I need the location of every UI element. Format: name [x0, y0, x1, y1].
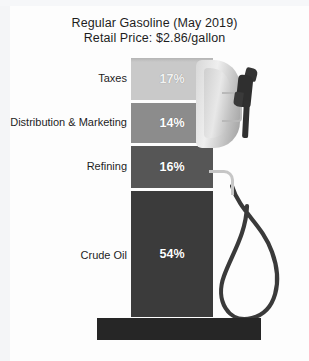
category-label-column: Taxes Distribution & Marketing Refining …	[0, 0, 127, 361]
gasoline-price-breakdown-infographic: Regular Gasoline (May 2019) Retail Price…	[0, 0, 309, 361]
bar-value-taxes: 17%	[159, 72, 184, 86]
bar-value-refining: 16%	[159, 160, 184, 174]
pump-base-icon	[97, 318, 261, 340]
fuel-nozzle-spout-icon	[242, 100, 250, 138]
bar-value-crude-oil: 54%	[159, 247, 184, 261]
fuel-nozzle-trigger-icon	[233, 91, 244, 106]
pump-pipe-elbow-icon	[209, 170, 234, 195]
category-label-taxes: Taxes	[1, 72, 127, 84]
category-label-crude-oil: Crude Oil	[1, 249, 127, 261]
bar-segment-crude-oil[interactable]: 54%	[131, 191, 213, 317]
bar-segment-refining[interactable]: 16%	[131, 146, 213, 188]
category-label-refining: Refining	[1, 160, 127, 172]
category-label-distribution-marketing: Distribution & Marketing	[1, 116, 127, 128]
bar-value-distribution-marketing: 14%	[159, 116, 184, 130]
